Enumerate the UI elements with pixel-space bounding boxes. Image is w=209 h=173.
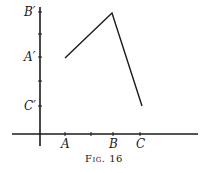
figure-canvas [0,0,209,173]
y-label-b-prime: B′ [24,6,36,18]
x-label-a: A [61,138,70,150]
y-label-c-prime: C′ [24,100,36,112]
x-label-c: C [136,138,145,150]
figure-caption: Fig. 16 [85,153,123,164]
x-label-b: B [109,138,118,150]
y-label-a-prime: A′ [24,51,35,63]
broken-line [65,13,142,106]
